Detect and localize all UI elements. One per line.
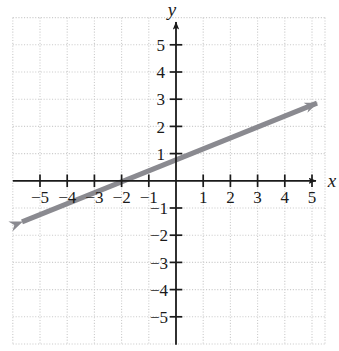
y-tick-label-3: 3 bbox=[157, 90, 166, 109]
y-tick-label--1: −1 bbox=[150, 199, 168, 218]
x-tick-label-5: 5 bbox=[308, 188, 317, 207]
graph-figure: −5 −4 −3 −2 −1 1 2 3 4 5 5 4 3 2 1 −1 −2… bbox=[0, 0, 339, 351]
y-tick-label--5: −5 bbox=[150, 308, 168, 327]
y-tick-label--2: −2 bbox=[150, 226, 168, 245]
x-tick-label--2: −2 bbox=[113, 188, 131, 207]
y-axis-label: y bbox=[166, 0, 177, 20]
y-tick-label-4: 4 bbox=[157, 63, 166, 82]
x-tick-label-1: 1 bbox=[199, 188, 208, 207]
x-tick-label-2: 2 bbox=[226, 188, 235, 207]
x-tick-label-3: 3 bbox=[253, 188, 262, 207]
y-tick-label-2: 2 bbox=[157, 118, 166, 137]
x-axis-label: x bbox=[327, 170, 337, 191]
y-tick-label-5: 5 bbox=[157, 36, 166, 55]
y-tick-label-1: 1 bbox=[157, 145, 166, 164]
x-tick-label--3: −3 bbox=[85, 188, 103, 207]
x-tick-label-4: 4 bbox=[281, 188, 290, 207]
coordinate-plane-svg: −5 −4 −3 −2 −1 1 2 3 4 5 5 4 3 2 1 −1 −2… bbox=[0, 0, 339, 351]
y-tick-label--3: −3 bbox=[150, 254, 168, 273]
x-tick-label--4: −4 bbox=[58, 188, 77, 207]
y-tick-label--4: −4 bbox=[150, 281, 169, 300]
x-tick-label--5: −5 bbox=[31, 188, 49, 207]
